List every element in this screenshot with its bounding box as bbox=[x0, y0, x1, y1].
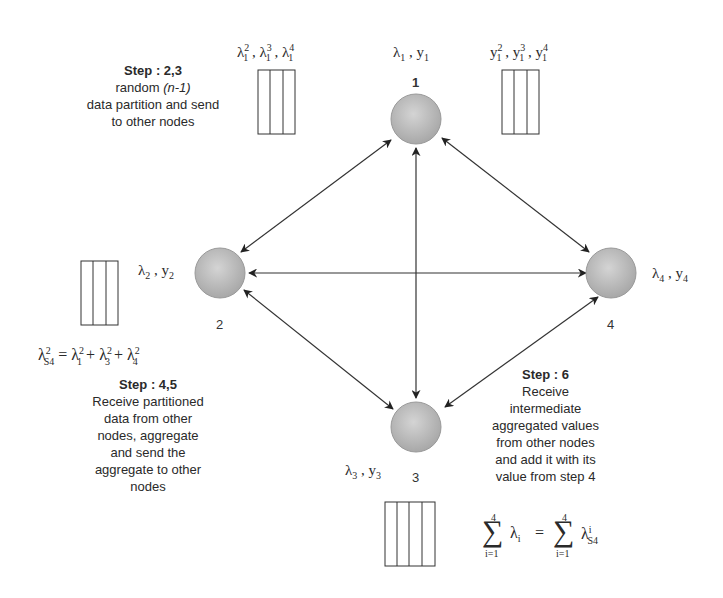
step-2-3-title: Step : 2,3 bbox=[124, 63, 182, 78]
node-4 bbox=[586, 248, 636, 298]
sum-1-lower: i=1 bbox=[485, 548, 498, 559]
sum-1-term: λi bbox=[510, 524, 521, 544]
node-2-vars: λ2 , y2 bbox=[138, 262, 174, 281]
partial-sum-equation: λ2S4 = λ21 + λ23 + λ24 bbox=[38, 345, 138, 367]
step-6-title: Step : 6 bbox=[522, 367, 569, 382]
step-2-3-n-minus-1: (n-1) bbox=[163, 80, 190, 95]
node-2-number: 2 bbox=[216, 317, 223, 332]
total-sum-equation: 4 ∑ i=1 λi = 4 ∑ i=1 λiS4 bbox=[480, 512, 660, 572]
node-3 bbox=[391, 402, 441, 452]
step-6-line: value from step 4 bbox=[478, 468, 613, 485]
lambda1-partition-label: λ21 , λ31 , λ41 bbox=[237, 42, 293, 63]
node-2 bbox=[195, 248, 245, 298]
sigma-2: ∑ bbox=[553, 516, 574, 546]
partition-box-node2 bbox=[81, 261, 118, 325]
step-2-3-annotation: Step : 2,3 random (n-1) data partition a… bbox=[68, 62, 238, 130]
step-4-5-title: Step : 4,5 bbox=[119, 377, 177, 392]
partition-box-y1 bbox=[502, 70, 539, 134]
edge-1-2 bbox=[241, 140, 391, 252]
partition-box-lambda1 bbox=[258, 70, 295, 134]
step-2-3-line2: data partition and send bbox=[68, 96, 238, 113]
node-3-number: 3 bbox=[412, 470, 419, 485]
node-4-vars: λ4 , y4 bbox=[652, 265, 688, 284]
sigma-1: ∑ bbox=[482, 516, 503, 546]
step-6-line: Receive bbox=[478, 383, 613, 400]
node-4-number: 4 bbox=[607, 317, 614, 332]
step-6-line: aggregated values bbox=[478, 417, 613, 434]
step-4-5-annotation: Step : 4,5 Receive partitioned data from… bbox=[78, 376, 218, 495]
step-2-3-line1: random bbox=[115, 80, 163, 95]
step-4-5-line: aggregate to other bbox=[78, 461, 218, 478]
step-4-5-line: Receive partitioned bbox=[78, 393, 218, 410]
equals-sign: = bbox=[535, 524, 544, 542]
edge-2-3 bbox=[244, 290, 393, 409]
step-4-5-line: nodes, aggregate bbox=[78, 427, 218, 444]
step-6-line: intermediate bbox=[478, 400, 613, 417]
node-1-number: 1 bbox=[412, 75, 419, 90]
node-1 bbox=[391, 94, 441, 144]
step-2-3-line3: to other nodes bbox=[68, 113, 238, 130]
step-6-line: from other nodes bbox=[478, 434, 613, 451]
step-4-5-line: data from other bbox=[78, 410, 218, 427]
node-3-vars: λ3 , y3 bbox=[345, 462, 381, 481]
step-6-line: and add it with its bbox=[478, 451, 613, 468]
sum-2-term: λiS4 bbox=[581, 524, 598, 546]
partition-box-node3 bbox=[385, 502, 435, 566]
step-4-5-line: and send the bbox=[78, 444, 218, 461]
y1-partition-label: y21 , y31 , y41 bbox=[490, 42, 547, 63]
step-4-5-line: nodes bbox=[78, 478, 218, 495]
edge-1-4 bbox=[442, 138, 589, 252]
node-1-vars: λ1 , y1 bbox=[393, 44, 429, 63]
step-6-annotation: Step : 6 Receive intermediate aggregated… bbox=[478, 366, 613, 485]
sum-2-lower: i=1 bbox=[556, 548, 569, 559]
